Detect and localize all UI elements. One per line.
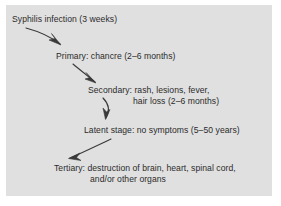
stage-label-infection: Syphilis infection (3 weeks) <box>12 14 117 25</box>
stage-label-secondary: Secondary: rash, lesions, fever, <box>88 85 210 96</box>
stage-label-secondary-line2: hair loss (2–6 months) <box>133 96 219 107</box>
stage-label-primary: Primary: chancre (2–6 months) <box>56 51 175 62</box>
syphilis-progression-figure: Syphilis infection (3 weeks) Primary: ch… <box>0 0 281 206</box>
stage-label-latent: Latent stage: no symptoms (5–50 years) <box>84 125 240 136</box>
stage-label-tertiary: Tertiary: destruction of brain, heart, s… <box>54 163 236 174</box>
stage-label-tertiary-line2: and/or other organs <box>90 174 166 185</box>
